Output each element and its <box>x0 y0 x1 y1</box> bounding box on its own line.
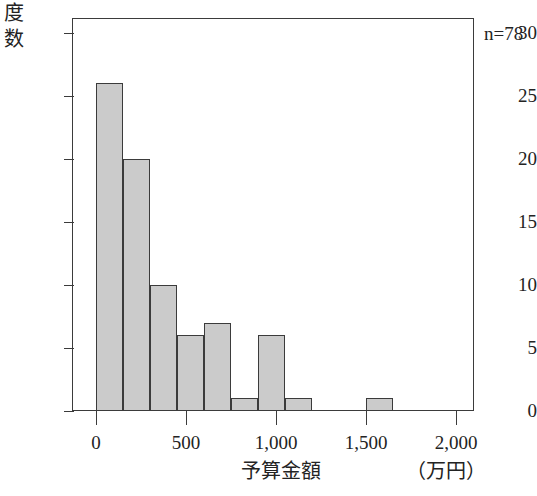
histogram-bar <box>231 398 258 411</box>
histogram-bar <box>123 159 150 411</box>
x-axis-tick-label: 1,500 <box>321 432 411 454</box>
y-axis-tick <box>64 159 74 160</box>
x-axis-title: 予算金額 <box>186 459 376 483</box>
y-axis-title-char-2: 数 <box>2 26 26 52</box>
sample-size-annotation: n=78 <box>484 24 523 44</box>
histogram-bar <box>285 398 312 411</box>
histogram-figure: 051015202530 度 数 05001,0001,5002,000 予算金… <box>0 0 537 496</box>
histogram-bar <box>96 83 123 411</box>
y-axis-tick <box>64 33 74 34</box>
x-axis-tick <box>186 411 187 425</box>
x-axis-tick-label: 1,000 <box>231 432 321 454</box>
x-axis-tick-label: 2,000 <box>411 432 501 454</box>
y-axis-tick <box>64 222 74 223</box>
histogram-bar <box>204 323 231 411</box>
y-axis-tick-label: 20 <box>493 149 537 168</box>
y-axis-tick-label: 15 <box>493 212 537 231</box>
bars-layer <box>72 18 474 411</box>
x-axis-tick-label: 0 <box>51 432 141 454</box>
x-axis-tick <box>96 411 97 425</box>
x-axis-tick <box>366 411 367 425</box>
y-axis-tick-label: 5 <box>493 338 537 357</box>
x-axis-tick-label: 500 <box>141 432 231 454</box>
y-axis-tick-label: 25 <box>493 86 537 105</box>
y-axis-tick-label: 10 <box>493 275 537 294</box>
x-axis-unit-label: （万円） <box>406 459 526 483</box>
y-axis-tick <box>64 96 74 97</box>
histogram-bar <box>366 398 393 411</box>
y-axis-tick <box>64 411 74 412</box>
x-axis-tick <box>276 411 277 425</box>
histogram-bar <box>258 335 285 411</box>
y-axis-tick-label: 0 <box>493 401 537 420</box>
x-axis-tick <box>456 411 457 425</box>
y-axis-tick <box>64 285 74 286</box>
y-axis-title-char-1: 度 <box>2 0 26 26</box>
histogram-bar <box>177 335 204 411</box>
y-axis-title: 度 数 <box>2 0 26 52</box>
y-axis-tick <box>64 348 74 349</box>
histogram-bar <box>150 285 177 411</box>
